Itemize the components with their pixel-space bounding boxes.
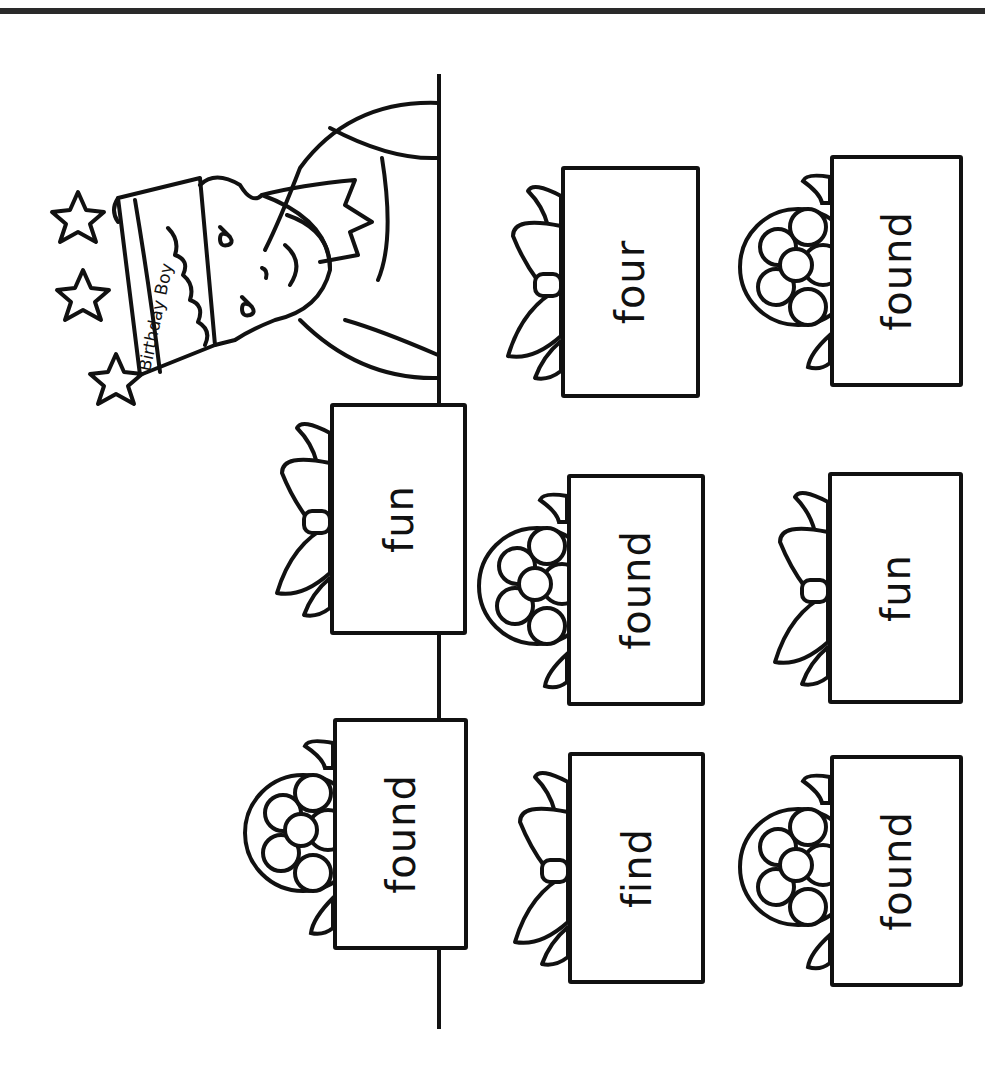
gift-word: found bbox=[874, 211, 920, 331]
boy-smile bbox=[285, 245, 296, 285]
boy-nose bbox=[262, 268, 267, 278]
star-icon bbox=[52, 192, 104, 242]
gift-word: fun bbox=[872, 554, 918, 622]
boy-eye-2 bbox=[242, 297, 254, 315]
gift-box: four bbox=[498, 166, 700, 398]
gift-box: fun bbox=[760, 472, 963, 704]
boy-eye-1 bbox=[220, 227, 232, 245]
boy-head bbox=[200, 178, 330, 346]
gift-word: found bbox=[378, 774, 424, 894]
star-icon bbox=[57, 270, 109, 320]
gift-box: found bbox=[475, 474, 705, 706]
gift-box: fun bbox=[262, 403, 467, 635]
crown-label: Birthday Boy bbox=[134, 261, 176, 372]
boy-body bbox=[265, 103, 438, 250]
gift-box: found bbox=[738, 155, 963, 387]
gift-box: found bbox=[243, 718, 468, 950]
star-icon bbox=[90, 354, 142, 404]
gift-word: four bbox=[607, 240, 653, 324]
gift-box: found bbox=[738, 755, 963, 987]
gift-word: fun bbox=[375, 485, 421, 553]
gift-word: found bbox=[874, 811, 920, 931]
gift-box: find bbox=[505, 752, 705, 984]
boy-hair bbox=[168, 228, 207, 345]
gift-word: find bbox=[614, 828, 660, 908]
gift-word: found bbox=[613, 530, 659, 650]
